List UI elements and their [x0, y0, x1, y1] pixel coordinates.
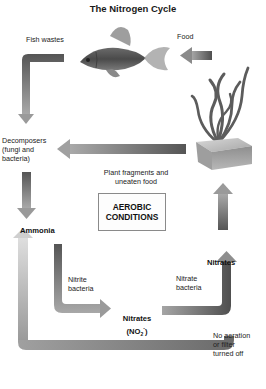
nitrate-bacteria-line1: Nitrate — [176, 274, 202, 283]
decomposers-to-ammonia-arrow — [17, 172, 36, 219]
nitrite-bacteria-line2: bacteria — [68, 284, 94, 293]
no-aeration-line1: No aeration — [213, 331, 250, 340]
aerobic-conditions-box: AEROBIC CONDITIONS — [98, 193, 166, 231]
fish-wastes-arrow — [18, 54, 64, 124]
no-aeration-line3: turned off — [213, 349, 250, 358]
plant-fragments-line1: Plant fragments and — [88, 168, 184, 177]
nitrates-to-plant-arrow — [213, 183, 233, 230]
aerobic-line2: CONDITIONS — [106, 212, 159, 222]
nitrate-bacteria-label: Nitrate bacteria — [176, 274, 202, 292]
food-label: Food — [177, 32, 193, 41]
plant-icon — [192, 68, 248, 142]
nitrite-bacteria-label: Nitrite bacteria — [68, 275, 94, 293]
plant-fragments-arrow — [57, 139, 186, 159]
decomposers-label: Decomposers (fungi and bacteria) — [2, 136, 46, 163]
fish-wastes-label: Fish wastes — [26, 35, 64, 44]
plant-fragments-line2: uneaten food — [88, 177, 184, 186]
aerobic-line1: AEROBIC — [106, 202, 159, 212]
decomposers-line3: bacteria) — [2, 154, 46, 163]
decomposers-line1: Decomposers — [2, 136, 46, 145]
plant-fragments-label: Plant fragments and uneaten food — [88, 168, 184, 186]
ammonia-label: Ammonia — [20, 226, 55, 236]
no-aeration-line2: or filter — [213, 340, 250, 349]
nitrates-bottom-formula: (NO2-) — [114, 324, 160, 340]
nitrates-top-label: Nitrates — [207, 258, 235, 268]
decomposers-line2: (fungi and — [2, 145, 46, 154]
fish-icon — [80, 27, 170, 77]
food-arrow — [180, 47, 212, 64]
nitrates-bottom-name: Nitrates — [114, 314, 160, 324]
no-aeration-label: No aeration or filter turned off — [213, 331, 250, 358]
formula-close: ) — [145, 326, 148, 335]
diagram-title: The Nitrogen Cycle — [0, 3, 266, 14]
nitrite-bacteria-line1: Nitrite — [68, 275, 94, 284]
nitrates-no2-label: Nitrates (NO2-) — [114, 314, 160, 339]
formula-base: (NO — [127, 326, 141, 335]
formula-sub: 2 — [140, 331, 143, 337]
plant-pot — [196, 138, 252, 170]
nitrate-bacteria-line2: bacteria — [176, 283, 202, 292]
